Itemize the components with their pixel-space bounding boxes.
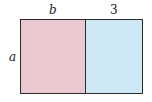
right-region	[85, 19, 143, 94]
label-a: a	[9, 51, 16, 63]
label-3: 3	[110, 4, 118, 16]
left-region	[20, 19, 86, 94]
label-b: b	[49, 4, 57, 16]
